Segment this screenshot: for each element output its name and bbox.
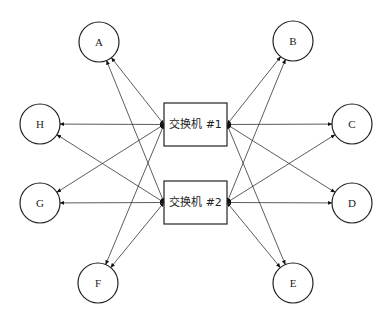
node-c-label: C: [348, 118, 355, 130]
edge-sw2-c: [227, 135, 335, 203]
edge-sw2-e: [227, 203, 280, 268]
edge-sw2-h: [57, 135, 164, 203]
node-h[interactable]: H: [20, 104, 60, 144]
node-f-label: F: [95, 277, 101, 289]
edge-sw2-f: [111, 203, 164, 268]
node-c[interactable]: C: [332, 104, 372, 144]
node-b-label: B: [289, 35, 296, 47]
node-a[interactable]: A: [79, 22, 119, 62]
network-diagram: 交换机 #1 交换机 #2 A B C D E F: [0, 0, 390, 320]
edge-sw2-b: [227, 60, 285, 203]
node-g[interactable]: G: [20, 183, 60, 223]
switch-1[interactable]: 交换机 #1: [164, 103, 227, 146]
switches-layer: 交换机 #1 交换机 #2: [164, 103, 227, 224]
node-e[interactable]: E: [273, 263, 313, 303]
edge-sw1-d: [227, 125, 335, 193]
switch-1-label: 交换机 #1: [169, 117, 222, 131]
node-b[interactable]: B: [273, 21, 313, 61]
node-d[interactable]: D: [332, 183, 372, 223]
node-e-label: E: [290, 277, 297, 289]
node-a-label: A: [95, 36, 103, 48]
edge-sw2-a: [107, 61, 164, 203]
node-g-label: G: [36, 197, 44, 209]
edge-sw1-g: [57, 125, 164, 193]
node-d-label: D: [348, 197, 356, 209]
switch-2-label: 交换机 #2: [169, 195, 222, 209]
node-h-label: H: [36, 118, 44, 130]
switch-2[interactable]: 交换机 #2: [164, 181, 227, 224]
nodes-layer: A B C D E F G H: [20, 21, 372, 303]
edge-sw1-e: [227, 125, 285, 265]
edge-sw1-f: [106, 125, 164, 265]
node-f[interactable]: F: [78, 263, 118, 303]
edges-layer: [57, 57, 335, 268]
